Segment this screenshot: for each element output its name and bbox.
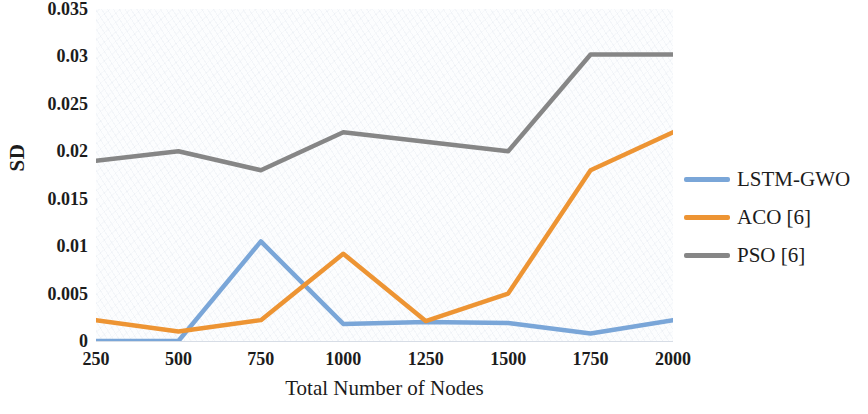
line-swatch-aco: [684, 215, 730, 220]
y-axis-tick-label: 0.035: [10, 0, 88, 18]
y-axis-tick-label: 0.03: [10, 47, 88, 65]
y-axis-tick-label: 0.01: [10, 237, 88, 255]
x-axis-tick-labels: 25050075010001250150017502000: [96, 349, 673, 375]
x-axis-tick-label: 1000: [325, 349, 361, 370]
line-swatch-pso: [684, 253, 730, 258]
series-line-aco-6: [96, 132, 673, 331]
legend-item-label: PSO [6]: [737, 243, 805, 268]
y-axis-tick-label: 0.02: [10, 142, 88, 160]
x-axis-tick-label: 1250: [408, 349, 444, 370]
chart-legend: LSTM-GWOACO [6]PSO [6]: [684, 160, 864, 274]
legend-item-label: ACO [6]: [737, 205, 811, 230]
series-line-pso-6: [96, 55, 673, 171]
y-axis-tick-label: 0.015: [10, 190, 88, 208]
y-axis-tick-label: 0: [10, 332, 88, 350]
y-axis-tick-label: 0.025: [10, 95, 88, 113]
x-axis-title: Total Number of Nodes: [96, 376, 673, 401]
legend-item[interactable]: ACO [6]: [684, 198, 864, 236]
legend-item[interactable]: PSO [6]: [684, 236, 864, 274]
x-axis-tick-label: 250: [83, 349, 110, 370]
plot-series-svg: [96, 9, 673, 341]
plot-area: [96, 9, 673, 341]
x-axis-tick-label: 2000: [655, 349, 691, 370]
legend-item-label: LSTM-GWO: [737, 167, 850, 192]
x-axis-tick-label: 750: [247, 349, 274, 370]
x-axis-baseline: [96, 341, 673, 342]
series-line-lstm-gwo: [96, 241, 673, 341]
x-axis-tick-label: 1500: [490, 349, 526, 370]
y-axis-tick-label: 0.005: [10, 285, 88, 303]
y-axis-tick-labels: 00.0050.010.0150.020.0250.030.035: [10, 0, 88, 352]
legend-item[interactable]: LSTM-GWO: [684, 160, 864, 198]
x-axis-tick-label: 500: [165, 349, 192, 370]
line-swatch-lstm-gwo: [684, 177, 730, 182]
chart-figure: SD 00.0050.010.0150.020.0250.030.035 250…: [0, 0, 868, 414]
x-axis-tick-label: 1750: [573, 349, 609, 370]
